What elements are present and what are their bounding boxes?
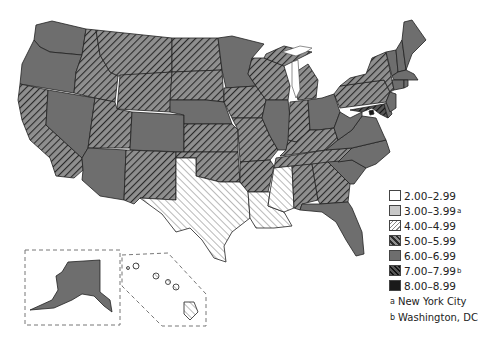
legend-swatch-dark-hatch: [389, 265, 401, 276]
state-ak: [30, 260, 112, 312]
legend-label: 6.00–6.99: [404, 250, 456, 262]
legend-label: 8.00–8.99: [404, 280, 456, 292]
legend-item-5: 5.00–5.99: [389, 233, 478, 248]
footnote-b: bWashington, DC: [389, 309, 478, 325]
legend-swatch-gray: [389, 250, 401, 261]
legend-item-4: 4.00–4.99: [389, 218, 478, 233]
legend-item-6: 6.00–6.99: [389, 248, 478, 263]
state-dc: [369, 110, 374, 115]
legend-label: 3.00–3.99: [404, 205, 456, 217]
legend-item-2: 2.00–2.99: [389, 188, 478, 203]
legend-swatch-white: [389, 190, 401, 201]
state-fl: [300, 202, 364, 256]
legend-swatch-medium-hatch: [389, 235, 401, 246]
state-ct: [392, 80, 404, 90]
footnote-mark: b: [457, 267, 461, 275]
legend-item-3: 3.00–3.99a: [389, 203, 478, 218]
footnote-mark: a: [457, 207, 461, 215]
state-hi: [127, 263, 199, 320]
state-ri: [404, 80, 408, 88]
state-ar: [240, 160, 274, 192]
legend-item-8: 8.00–8.99: [389, 278, 478, 293]
legend-label: 7.00–7.99: [404, 265, 456, 277]
state-nm: [124, 150, 176, 204]
legend-swatch-light-gray: [389, 205, 401, 216]
legend-swatch-black: [389, 280, 401, 291]
legend-label: 2.00–2.99: [404, 190, 456, 202]
legend-label: 4.00–4.99: [404, 220, 456, 232]
legend: 2.00–2.99 3.00–3.99a 4.00–4.99 5.00–5.99…: [389, 188, 478, 325]
state-ks: [184, 124, 238, 152]
state-co: [130, 112, 184, 152]
legend-label: 5.00–5.99: [404, 235, 456, 247]
legend-item-7: 7.00–7.99b: [389, 263, 478, 278]
footnote-a: aNew York City: [389, 293, 478, 309]
legend-swatch-light-hatch: [389, 220, 401, 231]
state-me: [402, 20, 426, 70]
state-wy: [117, 72, 172, 112]
state-nd: [172, 38, 222, 72]
state-az: [82, 148, 126, 200]
state-sd: [170, 70, 224, 102]
